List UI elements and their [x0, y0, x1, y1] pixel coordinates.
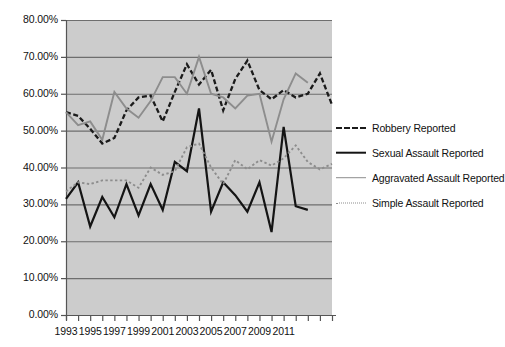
y-axis-tick-label: 30.00%: [2, 197, 58, 209]
legend-item-label: Robbery Reported: [372, 122, 455, 134]
legend-item[interactable]: Sexual Assault Reported: [336, 142, 488, 163]
chart-legend: Robbery ReportedSexual Assault ReportedA…: [336, 117, 488, 217]
solid-black-line-icon: [336, 147, 366, 159]
solid-gray-line-icon: [336, 172, 366, 184]
legend-item[interactable]: Simple Assault Reported: [336, 192, 488, 213]
legend-item-label: Simple Assault Reported: [372, 197, 484, 209]
y-axis-tick-label: 10.00%: [2, 271, 58, 283]
legend-item-label: Sexual Assault Reported: [372, 147, 484, 159]
y-axis-tick-label: 40.00%: [2, 161, 58, 173]
x-axis-tick-label: 2011: [267, 325, 301, 337]
legend-item[interactable]: Aggravated Assault Reported: [336, 167, 488, 188]
y-axis-tick-label: 20.00%: [2, 234, 58, 246]
y-axis-tick-label: 0.00%: [2, 308, 58, 320]
y-axis-tick-label: 80.00%: [2, 13, 58, 25]
legend-item-label: Aggravated Assault Reported: [372, 172, 505, 184]
dashed-black-line-icon: [336, 122, 366, 134]
dotted-gray-line-icon: [336, 197, 366, 209]
y-axis-tick-label: 70.00%: [2, 50, 58, 62]
y-axis-tick-label: 50.00%: [2, 124, 58, 136]
y-axis-tick-label: 60.00%: [2, 87, 58, 99]
legend-item[interactable]: Robbery Reported: [336, 117, 488, 138]
